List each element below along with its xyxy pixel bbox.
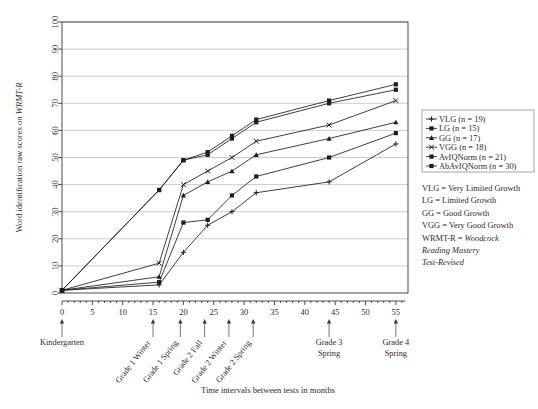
x-tick-label-25: 25	[210, 307, 219, 317]
x-tick-label-20: 20	[179, 307, 188, 317]
y-tick-label-0: 0	[50, 291, 60, 295]
x-tick-label-50: 50	[361, 307, 370, 317]
y-tick-label-70: 70	[50, 99, 60, 108]
y-tick-label-10: 10	[50, 262, 60, 271]
word-identification-growth-line-chart: 0102030405060708090100Word identificatio…	[0, 0, 538, 409]
series-line-VLG	[62, 144, 396, 290]
series-marker-LG-2	[181, 220, 185, 224]
x-tick-label-45: 45	[331, 307, 340, 317]
key-wrmt-italic-2: Reading Mastery	[421, 246, 480, 255]
key-wrmt-italic-1: Woodcock	[465, 234, 499, 243]
series-marker-VGG-1	[157, 261, 162, 266]
series-line-AbAvIQNorm	[62, 84, 396, 290]
x-tick-label-15: 15	[149, 307, 158, 317]
x-tick-label-0: 0	[60, 307, 64, 317]
y-tick-label-60: 60	[50, 126, 60, 135]
y-tick-label-50: 50	[50, 153, 60, 162]
y-tick-label-80: 80	[50, 72, 60, 81]
legend-marker-AvIQNorm	[429, 155, 433, 159]
legend-marker-LG	[429, 126, 433, 130]
series-line-GG	[62, 122, 396, 290]
annotation-arrowhead-2	[178, 319, 182, 324]
annotation-label-7-line-0: Grade 4	[382, 338, 410, 347]
y-axis-title-plain: Word identification raw scores on	[14, 114, 24, 232]
series-marker-GG-3	[205, 179, 210, 184]
series-marker-VGG-3	[205, 169, 210, 174]
series-marker-GG-2	[181, 193, 186, 198]
legend-label-VLG[interactable]: VLG (n = 19)	[439, 115, 486, 124]
annotation-label-6-line-1: Spring	[318, 349, 341, 358]
series-marker-GG-1	[157, 274, 162, 279]
legend-label-AvIQNorm[interactable]: AvIQNorm (n = 21)	[439, 153, 506, 162]
y-tick-label-100: 100	[50, 16, 60, 29]
key-wrmt-line: WRMT-R = Woodcock	[422, 234, 499, 243]
chart-figure: 0102030405060708090100Word identificatio…	[0, 0, 538, 409]
legend-label-VGG[interactable]: VGG (n = 18)	[439, 143, 487, 152]
series-marker-VLG-7	[393, 141, 398, 146]
annotation-arrowhead-5	[251, 319, 255, 324]
x-tick-label-5: 5	[90, 307, 94, 317]
annotation-arrowhead-4	[227, 319, 231, 324]
x-tick-label-30: 30	[240, 307, 249, 317]
series-marker-VGG-7	[393, 98, 398, 103]
annotation-arrowhead-0	[60, 319, 64, 324]
key-wrmt-italic-3: Test-Revised	[422, 258, 465, 267]
series-marker-VLG-6	[326, 179, 331, 184]
annotation-arrowhead-1	[151, 319, 155, 324]
series-line-AvIQNorm	[62, 90, 396, 291]
series-marker-LG-1	[157, 280, 161, 284]
x-axis-title: Time intervals between tests in months	[201, 385, 336, 395]
y-tick-label-90: 90	[50, 45, 60, 54]
y-axis-title-italic: WRMT-R	[14, 82, 24, 115]
key-wrmt-prefix: WRMT-R =	[422, 234, 465, 243]
x-tick-label-10: 10	[118, 307, 127, 317]
x-tick-label-35: 35	[270, 307, 279, 317]
annotation-label-7-line-1: Spring	[385, 349, 408, 358]
series-marker-AbAvIQNorm-5	[254, 117, 258, 121]
series-marker-LG-6	[327, 155, 331, 159]
x-tick-label-40: 40	[301, 307, 310, 317]
y-tick-label-20: 20	[50, 235, 60, 244]
x-tick-label-55: 55	[392, 307, 401, 317]
annotation-arrowhead-3	[202, 319, 206, 324]
key-line-1: LG = Limited Growth	[422, 196, 497, 205]
series-marker-AbAvIQNorm-6	[327, 98, 331, 102]
series-marker-GG-7	[393, 120, 398, 125]
series-marker-AbAvIQNorm-2	[181, 158, 185, 162]
key-line-3: VGG = Very Good Growth	[422, 221, 514, 230]
y-tick-label-40: 40	[50, 180, 60, 189]
legend-label-GG[interactable]: GG (n = 17)	[439, 134, 480, 143]
key-line-2: GG = Good Growth	[422, 209, 490, 218]
series-line-VGG	[62, 101, 396, 291]
series-marker-LG-7	[394, 131, 398, 135]
series-marker-AbAvIQNorm-7	[394, 82, 398, 86]
series-marker-AbAvIQNorm-3	[206, 150, 210, 154]
legend-marker-AbAvIQNorm	[429, 164, 433, 168]
legend-label-LG[interactable]: LG (n = 15)	[439, 124, 480, 133]
legend-label-AbAvIQNorm[interactable]: AbAvIQNorm (n = 30)	[439, 162, 517, 171]
annotation-arrowhead-7	[394, 319, 398, 324]
y-tick-label-30: 30	[50, 207, 60, 216]
series-marker-LG-3	[206, 218, 210, 222]
annotation-label-0-line-0: Kindergarten	[40, 338, 85, 347]
series-marker-AbAvIQNorm-0	[60, 288, 64, 292]
key-line-0: VLG = Very Limited Growth	[422, 184, 521, 193]
annotation-label-6-line-0: Grade 3	[316, 338, 343, 347]
legend-marker-VLG	[429, 116, 434, 121]
series-marker-AvIQNorm-7	[394, 88, 398, 92]
series-marker-LG-4	[230, 193, 234, 197]
y-axis-title: Word identification raw scores on WRMT-R	[14, 82, 24, 233]
series-marker-AbAvIQNorm-4	[230, 134, 234, 138]
series-marker-AbAvIQNorm-1	[157, 188, 161, 192]
series-marker-LG-5	[254, 174, 258, 178]
annotation-arrowhead-6	[327, 319, 331, 324]
series-marker-GG-4	[229, 168, 234, 173]
